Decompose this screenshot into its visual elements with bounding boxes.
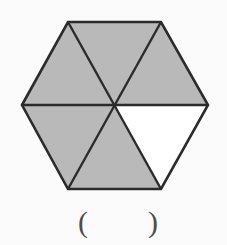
open-paren: ( (78, 207, 88, 237)
answer-blank-parentheses[interactable]: ( ) (78, 203, 158, 241)
answer-area: ( ) (0, 200, 227, 245)
question-figure-page: ( ) (0, 0, 227, 245)
close-paren: ) (148, 207, 158, 237)
hexagon-figure (0, 0, 227, 200)
figure-area (0, 0, 227, 200)
